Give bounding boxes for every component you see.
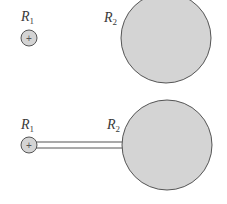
plus-charge-icon: + (26, 33, 32, 44)
label-r2: R2 (104, 11, 117, 27)
plus-charge-icon: + (26, 140, 32, 151)
label-r2-symbol: R (104, 10, 113, 25)
large-sphere-r2 (122, 100, 212, 190)
label-r2: R2 (107, 118, 120, 134)
charged-spheres-diagram: + + R1 R2 R1 R2 (0, 0, 227, 204)
label-r2-symbol: R (107, 117, 116, 132)
connecting-wire (36, 142, 123, 148)
label-r1-subscript: 1 (30, 16, 35, 26)
label-r1-symbol: R (21, 9, 30, 24)
label-r1-subscript: 1 (30, 124, 35, 134)
label-r1: R1 (21, 10, 34, 26)
label-r2-subscript: 2 (116, 124, 121, 134)
large-sphere-r2 (121, 0, 211, 83)
panel-connected: + (21, 100, 212, 190)
label-r1: R1 (21, 118, 34, 134)
label-r2-subscript: 2 (113, 17, 118, 27)
diagram-canvas: + + (0, 0, 227, 204)
label-r1-symbol: R (21, 117, 30, 132)
